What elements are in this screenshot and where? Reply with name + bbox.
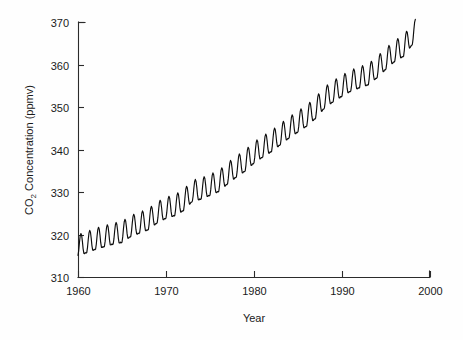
y-axis-title-prefix: CO bbox=[23, 198, 35, 215]
y-axis-tick-labels: 310320330340350360370 bbox=[51, 17, 69, 284]
y-tick-label: 310 bbox=[51, 272, 69, 284]
x-axis-ticks bbox=[79, 271, 431, 277]
x-tick-label: 1970 bbox=[154, 285, 178, 297]
chart-canvas: 310320330340350360370 196019701980199020… bbox=[0, 0, 463, 340]
y-tick-label: 360 bbox=[51, 60, 69, 72]
co2-series-line bbox=[78, 19, 415, 255]
y-axis-title-suffix: Concentration (ppmv) bbox=[23, 85, 35, 194]
x-tick-label: 1960 bbox=[66, 285, 90, 297]
x-tick-label: 1980 bbox=[242, 285, 266, 297]
y-axis-title: CO2 Concentration (ppmv) bbox=[23, 85, 38, 215]
co2-concentration-chart: 310320330340350360370 196019701980199020… bbox=[0, 0, 463, 340]
y-tick-label: 340 bbox=[51, 145, 69, 157]
x-axis-tick-labels: 19601970198019902000 bbox=[66, 285, 442, 297]
x-tick-label: 1990 bbox=[330, 285, 354, 297]
x-tick-label: 2000 bbox=[418, 285, 442, 297]
x-axis-title: Year bbox=[243, 312, 266, 324]
y-tick-label: 320 bbox=[51, 230, 69, 242]
y-tick-label: 330 bbox=[51, 187, 69, 199]
y-axis-title-group: CO2 Concentration (ppmv) bbox=[23, 85, 38, 215]
y-tick-label: 370 bbox=[51, 17, 69, 29]
y-tick-label: 350 bbox=[51, 102, 69, 114]
